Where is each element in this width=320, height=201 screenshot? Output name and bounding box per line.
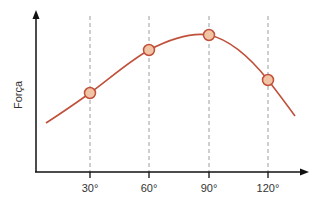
x-ticks [90,172,268,178]
x-axis-arrow-icon [300,169,309,176]
y-axis-label: Força [12,80,24,109]
x-tick-label-30: 30° [82,182,99,194]
grid-lines [90,16,268,172]
data-point-120 [263,75,274,86]
x-tick-label-90: 90° [201,182,218,194]
y-axis-arrow-icon [33,10,40,19]
data-point-30 [85,88,96,99]
x-tick-label-120: 120° [257,182,280,194]
data-point-60 [144,45,155,56]
force-curve [46,34,295,123]
force-angle-chart: 30° 60° 90° 120° Força [0,0,320,201]
data-markers [85,30,274,99]
x-tick-label-60: 60° [141,182,158,194]
data-point-90 [204,30,215,41]
axes [35,17,302,172]
